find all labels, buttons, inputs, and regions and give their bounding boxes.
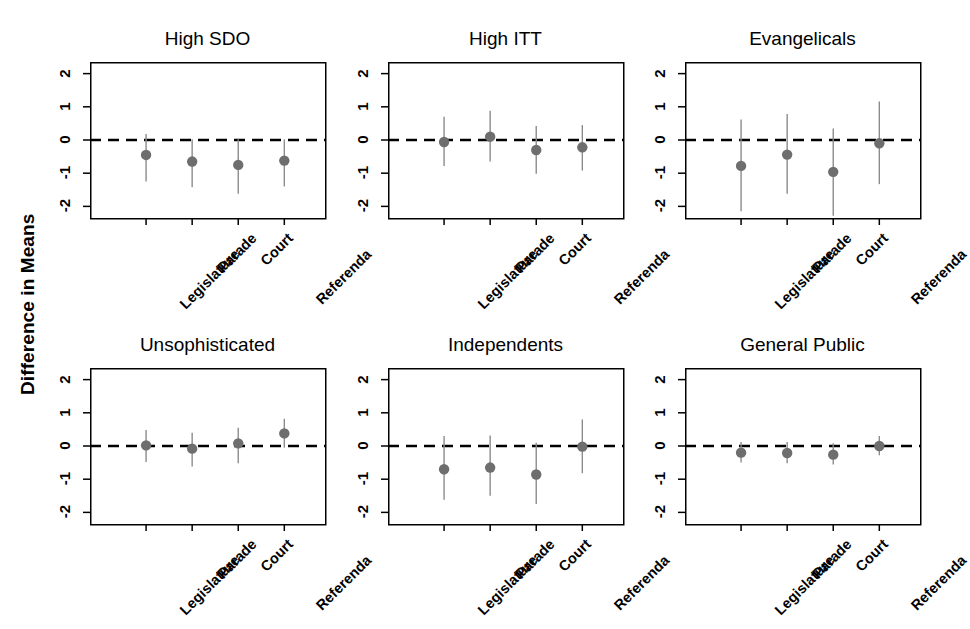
plot-area: [388, 368, 663, 554]
data-point: [531, 145, 541, 155]
data-point: [187, 156, 197, 166]
data-point: [736, 447, 746, 457]
data-point: [279, 155, 289, 165]
data-point: [828, 167, 838, 177]
panel-unsophisticated: Unsophisticated210-1-2LegislatureParadeC…: [90, 368, 325, 524]
data-point: [439, 137, 449, 147]
data-point: [141, 150, 151, 160]
y-axis-tick-label: 1: [56, 92, 73, 120]
y-axis-tick-label: -2: [56, 192, 73, 220]
y-axis-tick-label: -1: [354, 159, 371, 187]
panel-title: Unsophisticated: [90, 334, 325, 356]
y-axis-tick-label: 2: [56, 59, 73, 87]
y-axis-tick-label: -1: [56, 465, 73, 493]
y-axis-tick-label: -1: [651, 465, 668, 493]
data-point: [485, 462, 495, 472]
panel-title: Independents: [388, 334, 623, 356]
data-point: [439, 464, 449, 474]
data-point: [233, 438, 243, 448]
y-axis-tick-label: -2: [56, 498, 73, 526]
plot-area: [685, 62, 960, 248]
plot-area: [90, 62, 365, 248]
data-point: [736, 161, 746, 171]
y-axis-tick-label: 0: [651, 432, 668, 460]
panel-high-itt: High ITT210-1-2LegislatureParadeCourtRef…: [388, 62, 623, 218]
panel-general-public: General Public210-1-2LegislatureParadeCo…: [685, 368, 920, 524]
x-axis-tick-label: Referenda: [313, 246, 374, 307]
data-point: [187, 443, 197, 453]
y-axis-tick-label: 2: [651, 365, 668, 393]
y-axis-tick-label: 1: [56, 398, 73, 426]
y-axis-tick-label: 1: [651, 398, 668, 426]
y-axis-tick-label: -2: [651, 498, 668, 526]
data-point: [577, 142, 587, 152]
data-point: [141, 440, 151, 450]
y-axis-tick-label: 1: [354, 92, 371, 120]
y-axis-tick-label: 2: [354, 365, 371, 393]
panel-independents: Independents210-1-2LegislatureParadeCour…: [388, 368, 623, 524]
data-point: [782, 448, 792, 458]
data-point: [782, 149, 792, 159]
y-axis-tick-label: 1: [651, 92, 668, 120]
y-axis-tick-label: 0: [56, 126, 73, 154]
data-point: [828, 449, 838, 459]
x-axis-tick-label: Referenda: [611, 552, 672, 613]
panel-evangelicals: Evangelicals210-1-2LegislatureParadeCour…: [685, 62, 920, 218]
y-axis-tick-label: -2: [354, 192, 371, 220]
panel-title: General Public: [685, 334, 920, 356]
x-axis-tick-label: Referenda: [611, 246, 672, 307]
plot-area: [685, 368, 960, 554]
data-point: [874, 441, 884, 451]
y-axis-tick-label: 0: [56, 432, 73, 460]
data-point: [577, 441, 587, 451]
y-axis-tick-label: -2: [651, 192, 668, 220]
plot-area: [388, 62, 663, 248]
y-axis-tick-label: 2: [56, 365, 73, 393]
y-axis-tick-label: -2: [354, 498, 371, 526]
y-axis-tick-label: 2: [354, 59, 371, 87]
panel-title: High ITT: [388, 28, 623, 50]
y-axis-tick-label: 0: [651, 126, 668, 154]
y-axis-tick-label: 2: [651, 59, 668, 87]
y-axis-tick-label: 0: [354, 432, 371, 460]
x-axis-tick-label: Referenda: [908, 246, 969, 307]
data-point: [531, 469, 541, 479]
y-axis-tick-label: -1: [354, 465, 371, 493]
y-axis-tick-label: 1: [354, 398, 371, 426]
plot-area: [90, 368, 365, 554]
y-axis-tick-label: -1: [651, 159, 668, 187]
panel-high-sdo: High SDO210-1-2LegislatureParadeCourtRef…: [90, 62, 325, 218]
y-axis-tick-label: -1: [56, 159, 73, 187]
x-axis-tick-label: Referenda: [908, 552, 969, 613]
data-point: [279, 428, 289, 438]
y-axis-label: Difference in Means: [17, 215, 39, 395]
data-point: [485, 131, 495, 141]
panel-title: Evangelicals: [685, 28, 920, 50]
y-axis-tick-label: 0: [354, 126, 371, 154]
data-point: [233, 160, 243, 170]
x-axis-tick-label: Referenda: [313, 552, 374, 613]
data-point: [874, 138, 884, 148]
panel-title: High SDO: [90, 28, 325, 50]
